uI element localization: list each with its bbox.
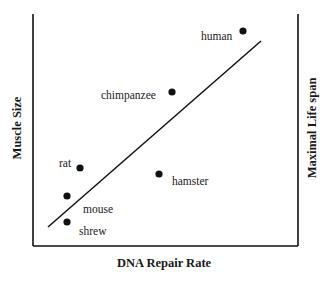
data-point: mouse	[63, 192, 113, 215]
x-axis-label: DNA Repair Rate	[117, 256, 212, 270]
point-label: hamster	[172, 175, 209, 187]
point-label: shrew	[79, 225, 107, 237]
scatter-chart: humanchimpanzeerathamstermouseshrew Musc…	[0, 0, 328, 281]
point-label: rat	[59, 157, 72, 169]
trend-line	[48, 41, 261, 227]
point-marker	[239, 27, 246, 34]
y-axis-label-left: Muscle Size	[10, 96, 24, 159]
data-point: hamster	[155, 170, 208, 187]
point-label: human	[201, 30, 233, 42]
point-marker	[63, 218, 70, 225]
data-point: human	[201, 27, 247, 42]
point-marker	[155, 170, 162, 177]
point-label: chimpanzee	[101, 89, 156, 102]
data-point: chimpanzee	[101, 88, 176, 102]
point-label: mouse	[83, 203, 113, 215]
data-points: humanchimpanzeerathamstermouseshrew	[59, 27, 247, 237]
axes-frame	[33, 14, 298, 246]
y-axis-label-right: Maximal Life span	[305, 78, 319, 179]
data-point: rat	[59, 157, 84, 172]
point-marker	[168, 88, 175, 95]
point-marker	[76, 164, 83, 171]
data-point: shrew	[63, 218, 107, 237]
point-marker	[63, 192, 70, 199]
